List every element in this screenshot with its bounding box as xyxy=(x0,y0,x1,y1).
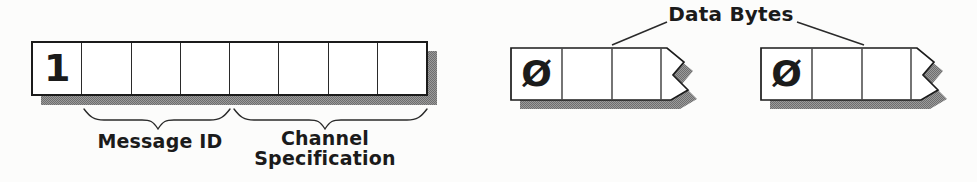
channel-specification-line1: Channel xyxy=(235,128,415,148)
bit-cell: 1 xyxy=(33,43,82,94)
channel-spec-brace xyxy=(234,109,427,129)
message-id-brace xyxy=(84,109,230,129)
status-bit-1: 1 xyxy=(44,49,70,87)
status-byte-box: 1 xyxy=(31,41,428,96)
bit-cell xyxy=(82,43,131,94)
byte-format-diagram: 1 Ø Ø Message ID Channel Specification D… xyxy=(0,0,977,182)
channel-specification-label: Channel Specification xyxy=(235,128,415,168)
bit-cell xyxy=(230,43,279,94)
bit-cell xyxy=(181,43,230,94)
bit-cell xyxy=(132,43,181,94)
channel-specification-line2: Specification xyxy=(235,148,415,168)
data-bytes-label: Data Bytes xyxy=(650,2,812,26)
data-byte-2-zero-bit: Ø xyxy=(761,47,812,100)
data-byte-1-zero-bit: Ø xyxy=(511,47,562,100)
bit-cell xyxy=(279,43,328,94)
bit-cell xyxy=(378,43,426,94)
message-id-label: Message ID xyxy=(80,130,240,152)
bit-cell xyxy=(329,43,378,94)
